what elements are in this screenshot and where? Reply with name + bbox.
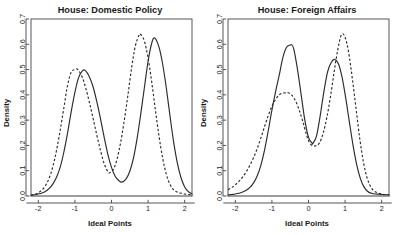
left-xtick-label-4: 2 — [183, 204, 187, 213]
left-ytick-label-0: 0.0 — [18, 191, 27, 201]
panel-left-yaxis-title: Density — [2, 98, 11, 127]
right-ytick-label-0: 0.0 — [215, 191, 224, 201]
right-xtick-label-4: 2 — [380, 204, 384, 213]
panel-left-title: House: Domestic Policy — [58, 5, 164, 15]
right-xtick-label-2: 0 — [307, 204, 311, 213]
right-ytick-label-4: 0.4 — [215, 90, 224, 100]
left-ytick-label-4: 0.4 — [18, 90, 27, 100]
right-ytick-label-5: 0.5 — [215, 65, 224, 75]
left-ytick-label-7: 0.7 — [18, 14, 27, 24]
right-density-curve-solid — [228, 44, 389, 195]
right-ytick-label-1: 0.1 — [215, 166, 224, 176]
right-xtick-label-3: 1 — [343, 204, 347, 213]
right-ytick-label-6: 0.6 — [215, 39, 224, 49]
panel-right-title: House: Foreign Affairs — [258, 5, 357, 15]
panel-foreign-affairs: House: Foreign Affairs Ideal Points Dens… — [197, 0, 394, 235]
right-xtick-label-1: -1 — [269, 204, 275, 213]
left-density-curve-dashed — [31, 34, 192, 195]
right-ytick-label-3: 0.3 — [215, 115, 224, 125]
left-plot-frame — [31, 19, 192, 196]
left-ytick-label-5: 0.5 — [18, 65, 27, 75]
right-density-curve-dashed — [228, 34, 389, 195]
panel-left-xaxis-title: Ideal Points — [88, 219, 132, 228]
panel-right-plot-area: 0.00.10.20.30.40.50.60.7-2-1012 — [215, 14, 392, 213]
right-ytick-label-7: 0.7 — [215, 14, 224, 24]
panel-right-yaxis-title: Density — [199, 98, 208, 127]
left-xtick-label-3: 1 — [146, 204, 150, 213]
left-xtick-label-2: 0 — [110, 204, 114, 213]
left-ytick-label-3: 0.3 — [18, 115, 27, 125]
panel-left-plot-area: 0.00.10.20.30.40.50.60.7-2-1012 — [18, 14, 195, 213]
left-xtick-label-1: -1 — [72, 204, 78, 213]
right-xtick-label-0: -2 — [232, 204, 238, 213]
panel-right-svg: House: Foreign Affairs Ideal Points Dens… — [197, 0, 394, 235]
panel-right-xaxis-title: Ideal Points — [285, 219, 329, 228]
figure-canvas: House: Domestic Policy Ideal Points Dens… — [0, 0, 394, 235]
right-ytick-label-2: 0.2 — [215, 140, 224, 150]
left-ytick-label-1: 0.1 — [18, 166, 27, 176]
panel-left-svg: House: Domestic Policy Ideal Points Dens… — [0, 0, 197, 235]
left-ytick-label-6: 0.6 — [18, 39, 27, 49]
panel-domestic-policy: House: Domestic Policy Ideal Points Dens… — [0, 0, 197, 235]
left-density-curve-solid — [31, 38, 192, 195]
left-xtick-label-0: -2 — [35, 204, 41, 213]
left-ytick-label-2: 0.2 — [18, 140, 27, 150]
